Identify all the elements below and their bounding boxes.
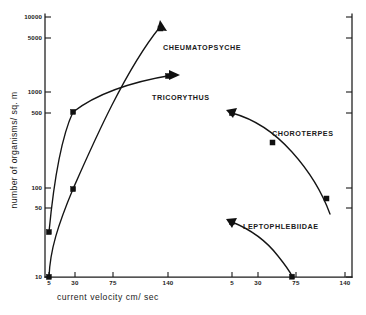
data-point-marker bbox=[324, 196, 329, 201]
data-point-marker bbox=[230, 111, 235, 116]
x-axis-ticks-left-panel bbox=[49, 272, 168, 277]
y-tick-label: 1000 bbox=[28, 88, 43, 95]
cheumatopsyche-curve bbox=[49, 27, 160, 277]
x-tick-label: 5 bbox=[230, 279, 234, 286]
secondary-y-axis-ticks bbox=[346, 17, 352, 277]
x-tick-label: 140 bbox=[340, 279, 351, 286]
x-axis-tick-labels-left-panel: 5 30 75 140 bbox=[47, 279, 174, 286]
data-point-marker bbox=[46, 230, 51, 235]
x-axis-title: current velocity cm/ sec bbox=[57, 292, 159, 302]
data-point-marker bbox=[71, 109, 76, 114]
data-point-marker bbox=[290, 274, 295, 279]
x-tick-label: 140 bbox=[163, 279, 174, 286]
series-choroterpes bbox=[226, 108, 330, 214]
figure-container: 10000 5000 1000 500 100 50 10 number of … bbox=[0, 0, 366, 315]
y-tick-label: 50 bbox=[35, 204, 43, 211]
x-axis-tick-labels-right-panel: 5 30 75 140 bbox=[230, 279, 351, 286]
x-tick-label: 75 bbox=[292, 279, 300, 286]
y-tick-label: 100 bbox=[31, 184, 42, 191]
secondary-y-axis bbox=[346, 14, 352, 277]
y-tick-label: 10000 bbox=[24, 13, 42, 20]
y-axis-title: number of organisms/ sq. m bbox=[9, 92, 19, 209]
data-point-marker bbox=[270, 140, 275, 145]
data-point-marker bbox=[46, 274, 51, 279]
data-point-marker bbox=[71, 187, 76, 192]
series-label-tricorythus: TRICORYTHUS bbox=[152, 93, 210, 102]
series-annotations: CHEUMATOPSYCHE TRICORYTHUS CHOROTERPES L… bbox=[152, 43, 334, 231]
x-tick-label: 5 bbox=[47, 279, 51, 286]
y-tick-label: 10 bbox=[35, 273, 43, 280]
series-cheumatopsyche bbox=[46, 20, 167, 279]
series-label-cheumatopsyche: CHEUMATOPSYCHE bbox=[163, 43, 241, 52]
y-axis-ticks bbox=[45, 17, 51, 277]
x-tick-label: 75 bbox=[109, 279, 117, 286]
x-axis: 5 30 75 140 5 30 75 140 current velocity… bbox=[45, 272, 352, 302]
x-tick-label: 30 bbox=[71, 279, 79, 286]
y-axis-tick-labels: 10000 5000 1000 500 100 50 10 bbox=[24, 13, 42, 280]
x-tick-label: 30 bbox=[254, 279, 262, 286]
chart-canvas: 10000 5000 1000 500 100 50 10 number of … bbox=[0, 0, 366, 315]
y-tick-label: 500 bbox=[31, 109, 42, 116]
data-point-marker bbox=[158, 26, 163, 31]
series-label-choroterpes: CHOROTERPES bbox=[272, 129, 334, 138]
data-point-marker bbox=[230, 220, 235, 225]
y-axis: 10000 5000 1000 500 100 50 10 number of … bbox=[9, 13, 51, 280]
y-tick-label: 5000 bbox=[28, 34, 43, 41]
series-label-leptophlebiidae: LEPTOPHLEBIIDAE bbox=[243, 222, 319, 231]
data-point-marker bbox=[166, 74, 171, 79]
x-axis-ticks-right-panel bbox=[232, 272, 345, 277]
